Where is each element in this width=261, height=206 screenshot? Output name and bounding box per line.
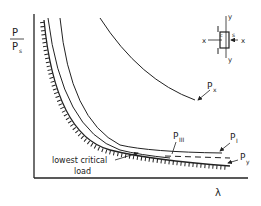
label-py-sub: y xyxy=(246,158,250,166)
leader-py xyxy=(228,160,238,163)
label-px-sub: x xyxy=(213,86,217,93)
curve-pi xyxy=(60,18,222,153)
hatch-lowest xyxy=(42,22,228,168)
curve-px xyxy=(100,18,195,100)
leader-pi xyxy=(220,143,230,151)
x-axis-label: λ xyxy=(215,187,221,198)
y-axis-label-denominator: P xyxy=(12,41,18,52)
y-axis-label-numerator: P xyxy=(12,27,18,38)
curve-piii xyxy=(48,18,170,158)
leader-px xyxy=(198,90,210,100)
svg-text:x: x xyxy=(202,37,206,45)
svg-text:y: y xyxy=(228,56,232,64)
cross-section-icon: x x y y s c xyxy=(202,13,245,64)
svg-text:y: y xyxy=(228,13,232,21)
y-axis-label-denominator-sub: s xyxy=(19,47,22,54)
annotation-line2: load xyxy=(74,167,91,176)
svg-text:s: s xyxy=(232,31,235,38)
svg-text:c: c xyxy=(220,32,223,38)
curve-py xyxy=(165,156,230,158)
buckling-diagram: P P s λ P x P I P III P y lowest critica… xyxy=(0,0,261,206)
svg-text:x: x xyxy=(241,37,245,45)
annotation-line1: lowest critical xyxy=(52,156,107,165)
label-piii-sub: III xyxy=(179,136,185,143)
label-pi-sub: I xyxy=(236,137,238,144)
leader-piii xyxy=(172,142,176,154)
